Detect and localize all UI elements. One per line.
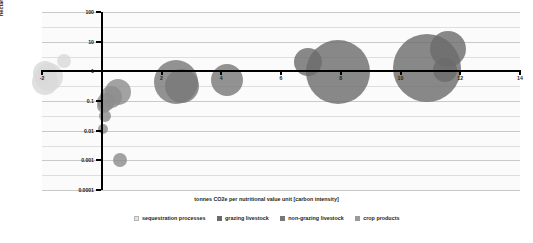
x-tick-label: -2	[32, 75, 52, 81]
legend-swatch-icon	[134, 216, 139, 221]
y-tick-mark	[96, 70, 101, 72]
legend-swatch-icon	[217, 216, 222, 221]
x-tick-label: 12	[450, 75, 470, 81]
legend-item-non-grazing-livestock[interactable]: non-grazing livestock	[280, 215, 344, 221]
x-tick-label: 6	[271, 75, 291, 81]
gridline-y	[42, 190, 520, 191]
x-tick-label: 8	[331, 75, 351, 81]
y-tick-mark	[96, 100, 101, 102]
plot-area: 1001010.10.010.0010.0001-22468101214	[42, 12, 520, 190]
chart-legend: sequestration processesgrazing livestock…	[0, 215, 533, 221]
x-tick-label: 2	[152, 75, 172, 81]
y-tick-label: 10	[54, 39, 94, 45]
y-tick-mark	[96, 41, 101, 43]
gridline-y-minor	[42, 175, 520, 176]
legend-label: non-grazing livestock	[288, 215, 343, 221]
legend-swatch-icon	[355, 216, 360, 221]
x-tick-label: 4	[211, 75, 231, 81]
x-tick-label: 14	[510, 75, 530, 81]
bubble-chart: 1001010.10.010.0010.0001-22468101214 hec…	[0, 0, 533, 243]
y-axis-title: hectares per nutritional value unit [lan…	[0, 0, 4, 16]
y-tick-mark	[96, 11, 101, 13]
y-tick-label: 0.001	[54, 157, 94, 163]
legend-item-grazing-livestock[interactable]: grazing livestock	[217, 215, 269, 221]
y-tick-mark	[96, 159, 101, 161]
legend-label: crop products	[363, 215, 399, 221]
bubble-non-grazing-livestock-1	[165, 69, 199, 103]
y-axis-line	[101, 12, 103, 190]
gridline-y	[42, 12, 520, 13]
y-tick-mark	[96, 130, 101, 132]
legend-item-sequestration-processes[interactable]: sequestration processes	[134, 215, 206, 221]
x-axis-title: tonnes CO2e per nutritional value unit […	[0, 196, 533, 202]
y-tick-label: 0.01	[54, 128, 94, 134]
gridline-y-minor	[42, 146, 520, 147]
y-tick-label: 0.0001	[54, 187, 94, 193]
gridline-y-minor	[42, 116, 520, 117]
legend-label: grazing livestock	[225, 215, 269, 221]
x-tick-label: 10	[391, 75, 411, 81]
y-tick-label: 0.1	[54, 98, 94, 104]
legend-item-crop-products[interactable]: crop products	[355, 215, 400, 221]
legend-label: sequestration processes	[142, 215, 206, 221]
y-tick-mark	[96, 189, 101, 191]
y-tick-label: 100	[54, 9, 94, 15]
y-tick-label: 1	[54, 68, 94, 74]
gridline-y-minor	[42, 27, 520, 28]
legend-swatch-icon	[280, 216, 285, 221]
gridline-y	[42, 131, 520, 132]
